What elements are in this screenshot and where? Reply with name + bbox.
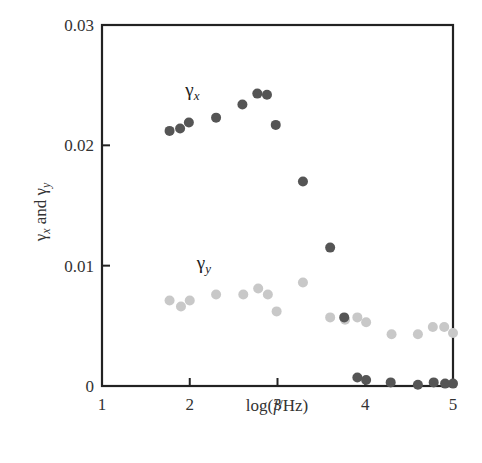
- x-axis-title: log(f/Hz): [246, 396, 308, 415]
- data-point: [252, 89, 262, 99]
- series-label-x: γx: [184, 79, 199, 103]
- y-axis-title-sub2: y: [39, 182, 53, 189]
- x-tick-label: 1: [98, 395, 107, 414]
- x-axis-title-prefix: log(: [246, 396, 274, 415]
- series-labels: γxγy: [184, 79, 211, 276]
- data-point: [271, 120, 281, 130]
- data-point: [448, 379, 458, 389]
- y-tick-label: 0.01: [64, 257, 94, 276]
- data-point: [211, 113, 221, 123]
- data-point: [184, 117, 194, 127]
- data-point: [361, 317, 371, 327]
- data-point: [429, 377, 439, 387]
- x-tick-label: 2: [186, 395, 195, 414]
- y-axis-ticks: 00.010.020.03: [64, 16, 110, 396]
- y-tick-label: 0.03: [64, 16, 94, 35]
- data-point: [272, 306, 282, 316]
- data-point: [352, 373, 362, 383]
- data-point: [352, 312, 362, 322]
- data-point: [298, 278, 308, 288]
- data-point: [428, 322, 438, 332]
- data-point: [176, 302, 186, 312]
- series-x: [165, 89, 458, 390]
- data-point: [211, 290, 221, 300]
- x-tick-label: 4: [361, 395, 370, 414]
- data-point: [238, 290, 248, 300]
- data-point: [339, 312, 349, 322]
- x-tick-label: 5: [449, 395, 458, 414]
- plot-frame: [102, 25, 453, 386]
- data-point: [253, 284, 263, 294]
- y-axis-title: γx and γy: [31, 182, 53, 242]
- data-point: [387, 329, 397, 339]
- data-point: [298, 176, 308, 186]
- data-point: [165, 296, 175, 306]
- data-point: [263, 290, 273, 300]
- series-y: [165, 278, 458, 340]
- data-point: [386, 377, 396, 387]
- data-point: [361, 375, 371, 385]
- data-points: [165, 89, 458, 390]
- data-point: [448, 328, 458, 338]
- y-axis-title-and: and: [31, 195, 50, 228]
- y-tick-label: 0.02: [64, 136, 94, 155]
- data-point: [185, 296, 195, 306]
- data-point: [413, 329, 423, 339]
- x-axis-title-suffix: /Hz): [278, 396, 308, 415]
- data-point: [325, 243, 335, 253]
- y-tick-label: 0: [86, 377, 95, 396]
- plot-area-border: [102, 25, 453, 386]
- data-point: [439, 322, 449, 332]
- data-point: [262, 90, 272, 100]
- data-point: [325, 312, 335, 322]
- data-point: [175, 123, 185, 133]
- scatter-chart: 12345 00.010.020.03 γxγy log(f/Hz) γx an…: [0, 0, 482, 463]
- data-point: [237, 99, 247, 109]
- data-point: [165, 126, 175, 136]
- series-label-y: γy: [196, 252, 211, 276]
- data-point: [413, 380, 423, 390]
